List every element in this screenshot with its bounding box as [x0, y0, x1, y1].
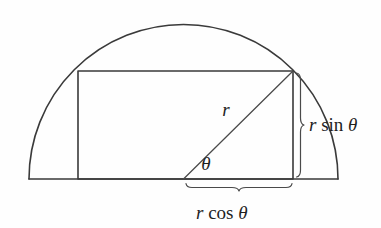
semicircle-arc — [29, 25, 338, 179]
r-sin-theta-angle: θ — [348, 114, 357, 135]
r-sin-theta-func: sin — [321, 114, 344, 135]
radius-hypotenuse-line — [184, 71, 294, 179]
r-cos-theta-angle: θ — [238, 202, 247, 223]
r-cos-theta-func: cos — [208, 202, 233, 223]
r-sin-theta-brace — [297, 73, 305, 177]
r-sin-theta-label: r sin θ — [309, 114, 357, 135]
inscribed-rectangle — [78, 71, 293, 179]
geometry-figure: r θ r sin θ r cos θ — [0, 0, 381, 228]
r-cos-theta-label: r cos θ — [196, 202, 248, 223]
diagram-root: r θ r sin θ r cos θ — [0, 0, 381, 228]
radius-label: r — [222, 99, 230, 120]
r-cos-theta-brace — [186, 184, 292, 192]
angle-theta-label: θ — [201, 153, 210, 174]
